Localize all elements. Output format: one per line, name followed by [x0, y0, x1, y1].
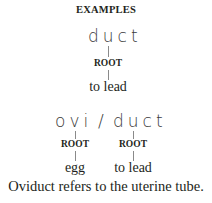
- root-label-ovi: ROOT: [55, 139, 95, 149]
- word-part-ovi: ovi: [55, 111, 92, 131]
- example-sentence: Oviduct refers to the uterine tube.: [0, 178, 212, 195]
- root-meaning-ovi: egg: [50, 160, 100, 176]
- connector-line: [75, 131, 76, 139]
- word-duct: duct: [88, 26, 142, 46]
- root-label: ROOT: [88, 58, 128, 68]
- connector-line: [133, 131, 134, 139]
- examples-heading: EXAMPLES: [0, 4, 212, 15]
- root-label-duct: ROOT: [113, 139, 153, 149]
- connector-line: [108, 46, 109, 57]
- root-meaning-duct: to lead: [103, 160, 163, 176]
- word-part-duct: duct: [113, 111, 167, 131]
- root-meaning: to lead: [78, 79, 138, 95]
- word-separator: /: [98, 111, 104, 131]
